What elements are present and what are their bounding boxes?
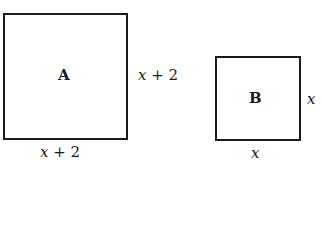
expression-rest: + 2	[48, 143, 80, 161]
square-b-bottom-length: x	[251, 144, 259, 162]
variable: x	[251, 144, 259, 162]
expression-rest: + 2	[146, 66, 178, 84]
variable: x	[307, 90, 315, 108]
square-b-side-length: x	[307, 90, 315, 108]
square-b-label: B	[249, 89, 262, 107]
square-a-side-length: x + 2	[138, 66, 178, 84]
square-a-bottom-length: x + 2	[40, 143, 80, 161]
square-a-label: A	[58, 66, 70, 84]
